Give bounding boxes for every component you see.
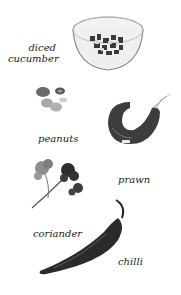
label-chilli: chilli [118, 256, 143, 267]
prawn-illustration [100, 94, 172, 154]
label-line-1: diced [8, 42, 56, 53]
label-prawn: prawn [118, 174, 150, 185]
label-peanuts: peanuts [38, 133, 78, 144]
chilli-illustration [34, 198, 129, 278]
cucumber-bowl-illustration [70, 12, 146, 74]
label-diced-cucumber: diced cucumber [8, 42, 56, 64]
label-line-2: cucumber [8, 53, 56, 64]
peanuts-illustration [34, 86, 74, 114]
